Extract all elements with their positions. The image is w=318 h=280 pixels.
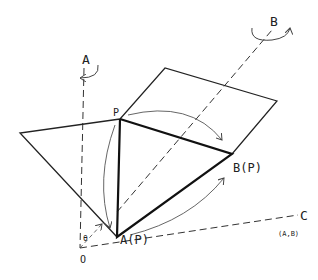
label-axis-b: B bbox=[270, 14, 278, 29]
central-triangle bbox=[117, 119, 232, 237]
label-axis-c: C bbox=[300, 208, 308, 223]
axis-b-rotation-icon bbox=[252, 28, 290, 40]
diagram-svg: A B C (A,B) P A(P) B(P) O θ bbox=[0, 0, 318, 280]
arrow-p-to-ap bbox=[104, 125, 115, 228]
label-point-p: P bbox=[113, 107, 119, 118]
left-triangle bbox=[20, 119, 120, 237]
rotation-diagram: A B C (A,B) P A(P) B(P) O θ bbox=[0, 0, 318, 280]
label-axis-c-sub: (A,B) bbox=[278, 230, 299, 238]
arrow-ap-to-bp bbox=[130, 178, 224, 235]
right-parallelogram bbox=[120, 68, 277, 154]
label-point-bp: B(P) bbox=[233, 161, 262, 175]
label-origin: O bbox=[80, 254, 86, 265]
axis-a-line bbox=[80, 68, 84, 248]
label-point-ap: A(P) bbox=[120, 233, 149, 247]
label-axis-a: A bbox=[82, 52, 90, 67]
axis-b-line bbox=[117, 30, 272, 212]
label-angle-theta: θ bbox=[83, 234, 88, 243]
